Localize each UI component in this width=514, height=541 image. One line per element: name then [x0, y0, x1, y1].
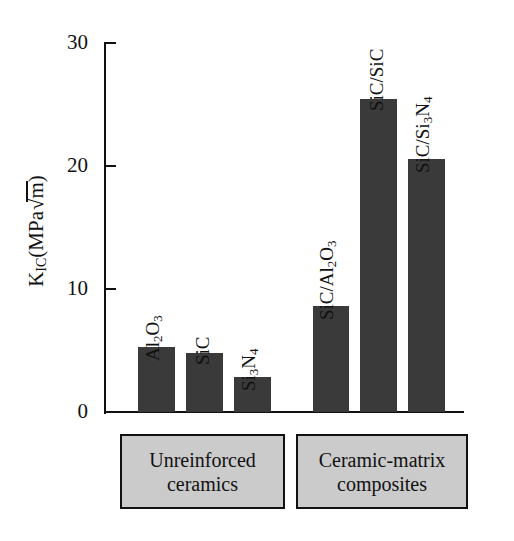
- bar-label-sic-sic: SiC/SiC: [366, 48, 388, 110]
- bar-label-si3n4: Si3N4: [238, 349, 262, 392]
- y-axis-line: [104, 42, 106, 414]
- radical-overbar: [26, 181, 28, 202]
- y-tick-mark-0: [104, 411, 116, 413]
- bar-label-al2o3: Al2O3: [142, 315, 166, 361]
- legend-label-composites-line1: Ceramic-matrix: [319, 449, 446, 471]
- y-axis-title-unit-open: (MPa: [24, 211, 48, 258]
- y-tick-mark-30: [104, 42, 116, 44]
- y-tick-mark-10: [104, 288, 116, 290]
- bar-label-sic-al2o3: SiC/Al2O3: [316, 240, 340, 320]
- legend-box-unreinforced-ceramics: Unreinforced ceramics: [120, 434, 285, 509]
- y-axis-title-subscript-ic: IC: [34, 258, 49, 272]
- legend-box-ceramic-matrix-composites: Ceramic-matrix composites: [296, 434, 468, 509]
- y-tick-label-10: 10: [30, 278, 88, 299]
- y-axis-title-unit-close: ): [24, 175, 48, 182]
- bar-sic-sic: [360, 99, 397, 412]
- bar-sic-al2o3: [313, 306, 349, 412]
- y-tick-label-20: 20: [30, 155, 88, 176]
- y-tick-mark-20: [104, 165, 116, 167]
- y-axis-title-radical: √m: [24, 182, 49, 211]
- bar-label-sic-si3n4: SiC/Si3N4: [412, 97, 436, 173]
- bar-label-sic: SiC: [192, 336, 214, 365]
- radicand-m: m: [24, 182, 48, 198]
- legend-label-composites-line2: composites: [337, 473, 427, 495]
- y-tick-label-0: 0: [30, 401, 88, 422]
- legend-label-unreinforced-line2: ceramics: [167, 473, 238, 495]
- fracture-toughness-bar-chart: KIC(MPa√m) 30 20 10 0 Al2O3 SiC Si3N4 Si…: [0, 0, 514, 541]
- y-tick-label-30: 30: [30, 32, 88, 53]
- radical-glyph: √: [24, 198, 48, 210]
- legend-label-unreinforced-line1: Unreinforced: [149, 449, 256, 471]
- bar-sic-si3n4: [408, 159, 445, 412]
